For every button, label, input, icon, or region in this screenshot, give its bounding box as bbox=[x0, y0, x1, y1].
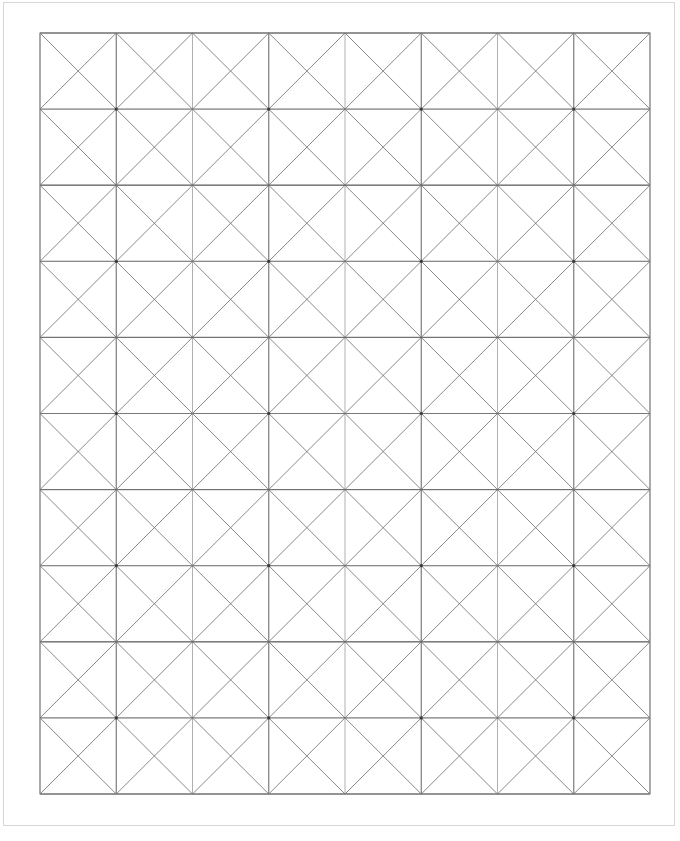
geometric-pattern-canvas bbox=[0, 0, 680, 841]
star-center-node bbox=[572, 260, 575, 263]
drawing-page bbox=[0, 0, 680, 841]
star-center-node bbox=[420, 716, 423, 719]
star-center-node bbox=[115, 260, 118, 263]
star-center-node bbox=[420, 260, 423, 263]
page-background bbox=[0, 0, 680, 841]
star-center-node bbox=[115, 716, 118, 719]
star-center-node bbox=[115, 108, 118, 111]
star-center-node bbox=[267, 716, 270, 719]
star-center-node bbox=[115, 412, 118, 415]
star-center-node bbox=[572, 564, 575, 567]
star-center-node bbox=[267, 564, 270, 567]
star-center-node bbox=[572, 412, 575, 415]
star-center-node bbox=[572, 716, 575, 719]
star-center-node bbox=[267, 260, 270, 263]
star-center-node bbox=[420, 108, 423, 111]
star-center-node bbox=[267, 108, 270, 111]
star-center-node bbox=[115, 564, 118, 567]
star-center-node bbox=[420, 564, 423, 567]
star-center-node bbox=[267, 412, 270, 415]
star-center-node bbox=[420, 412, 423, 415]
star-center-node bbox=[572, 108, 575, 111]
